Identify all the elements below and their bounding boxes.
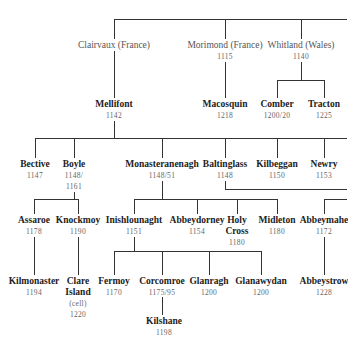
node-mellifont: Mellifont 1142 <box>95 99 132 121</box>
node-date: 1148 <box>203 170 247 181</box>
node-date: 1180 <box>259 226 296 237</box>
node-name: Assaroe <box>18 215 50 226</box>
connector <box>225 19 226 39</box>
connector <box>301 62 302 80</box>
connector <box>162 138 163 158</box>
node-name: Clairvaux (France) <box>78 40 150 51</box>
node-name: Morimond (France) <box>187 40 262 51</box>
node-name: Macosquin <box>203 99 248 110</box>
node-name: Kilbeggan <box>256 159 298 170</box>
connector <box>114 251 115 275</box>
connector <box>74 138 75 158</box>
node-date: 1153 <box>311 170 338 181</box>
node-name: Mellifont <box>95 99 132 110</box>
connector <box>301 19 302 39</box>
node-name: Inishlounaght <box>106 215 163 226</box>
connector <box>324 199 347 200</box>
node-date: 1200/20 <box>260 110 293 121</box>
connector <box>197 199 198 214</box>
node-monasteranenagh: Monasteranenagh 1148/51 <box>125 159 198 181</box>
node-date: 1151 <box>106 226 163 237</box>
node-date: 1142 <box>95 110 132 121</box>
node-name: Holy <box>225 215 248 226</box>
node-name: Tracton <box>308 99 340 110</box>
connector <box>134 199 278 200</box>
node-knockmoy: Knockmoy 1190 <box>56 215 100 237</box>
node-date: 1225 <box>308 110 340 121</box>
node-name: Whitland (Wales) <box>267 40 334 51</box>
node-date: 1170 <box>98 287 130 298</box>
connector <box>225 181 226 189</box>
node-glanawydan: Glanawydan 1200 <box>235 276 287 298</box>
node-holy-cross: Holy Cross 1180 <box>225 215 248 248</box>
node-date: 1200 <box>189 287 228 298</box>
node-date: 1175/95 <box>139 287 185 298</box>
connector <box>34 199 35 214</box>
connector <box>114 251 262 252</box>
node-name: Boyle <box>63 159 86 170</box>
node-name: Midleton <box>259 215 296 226</box>
node-name: Abbeymahe <box>300 215 348 226</box>
node-name: Clare <box>65 276 90 287</box>
node-name: Baltinglass <box>203 159 247 170</box>
node-date: 1220 <box>65 309 90 320</box>
node-fermoy: Fermoy 1170 <box>98 276 130 298</box>
node-name: Kilmonaster <box>9 276 60 287</box>
node-clairvaux: Clairvaux (France) <box>78 40 150 51</box>
node-date: 1218 <box>203 110 248 121</box>
connector <box>78 237 79 275</box>
node-corcomroe: Corcomroe 1175/95 <box>139 276 185 298</box>
connector <box>324 237 325 275</box>
connector <box>162 251 163 275</box>
node-date: 1154 <box>170 226 225 237</box>
connector <box>225 62 226 98</box>
node-name: Fermoy <box>98 276 130 287</box>
connector <box>114 19 115 39</box>
connector <box>324 138 325 158</box>
connector <box>34 199 79 200</box>
node-date: 1148/ <box>63 170 86 181</box>
node-midleton: Midleton 1180 <box>259 215 296 237</box>
node-macosquin: Macosquin 1218 <box>203 99 248 121</box>
connector <box>225 189 347 190</box>
node-kilmonaster: Kilmonaster 1194 <box>9 276 60 298</box>
node-name: Island <box>65 287 90 298</box>
connector <box>114 19 347 20</box>
connector <box>324 80 325 98</box>
node-name: Knockmoy <box>56 215 100 226</box>
node-name: Kilshane <box>146 316 182 327</box>
node-abbeymahon: Abbeymahe 1172 <box>300 215 348 237</box>
node-date: 1198 <box>146 327 182 338</box>
node-date: 1194 <box>9 287 60 298</box>
node-name: Abbeydorney <box>170 215 225 226</box>
node-date: 1178 <box>18 226 50 237</box>
node-glanragh: Glanragh 1200 <box>189 276 228 298</box>
node-baltinglass: Baltinglass 1148 <box>203 159 247 181</box>
connector <box>277 138 278 158</box>
node-kilshane: Kilshane 1198 <box>146 316 182 338</box>
node-note: (cell) <box>65 298 90 309</box>
node-name: Comber <box>260 99 293 110</box>
node-morimond: Morimond (France) 1115 <box>187 40 262 62</box>
connector <box>237 199 238 214</box>
node-whitland: Whitland (Wales) 1140 <box>267 40 334 62</box>
connector <box>78 199 79 214</box>
node-inishlounaght: Inishlounaght 1151 <box>106 215 163 237</box>
node-date: 1150 <box>256 170 298 181</box>
node-date: 1147 <box>20 170 50 181</box>
node-name: Glanawydan <box>235 276 287 287</box>
node-assaroe: Assaroe 1178 <box>18 215 50 237</box>
node-date: 1190 <box>56 226 100 237</box>
node-name: Monasteranenagh <box>125 159 198 170</box>
node-date: 1228 <box>300 287 348 298</box>
node-name: Glanragh <box>189 276 228 287</box>
node-name: Bective <box>20 159 50 170</box>
connector <box>277 80 278 98</box>
node-clare-island: Clare Island (cell) 1220 <box>65 276 90 320</box>
node-abbeystrowry: Abbeystrow 1228 <box>300 276 348 298</box>
connector <box>114 121 115 138</box>
node-date: 1148/51 <box>125 170 198 181</box>
connector <box>277 80 325 81</box>
connector <box>277 199 278 214</box>
node-name: Newry <box>311 159 338 170</box>
